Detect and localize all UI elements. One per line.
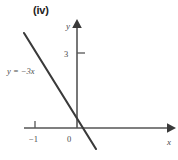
equation-annotation: y = −3x (6, 66, 35, 76)
figure-panel: (iv) y x 3 −1 0 y = −3x (0, 0, 178, 160)
y-tick-label-3: 3 (64, 49, 68, 59)
y-axis-label: y (65, 21, 70, 31)
line-y-equals-minus-3x (24, 33, 96, 149)
x-axis-arrow-icon (167, 123, 176, 133)
x-axis-label: x (166, 137, 171, 147)
origin-label: 0 (67, 134, 71, 144)
x-tick-label-minus1: −1 (29, 134, 38, 144)
y-axis-arrow-icon (72, 19, 82, 28)
coordinate-plot: y x 3 −1 0 y = −3x (0, 0, 178, 160)
